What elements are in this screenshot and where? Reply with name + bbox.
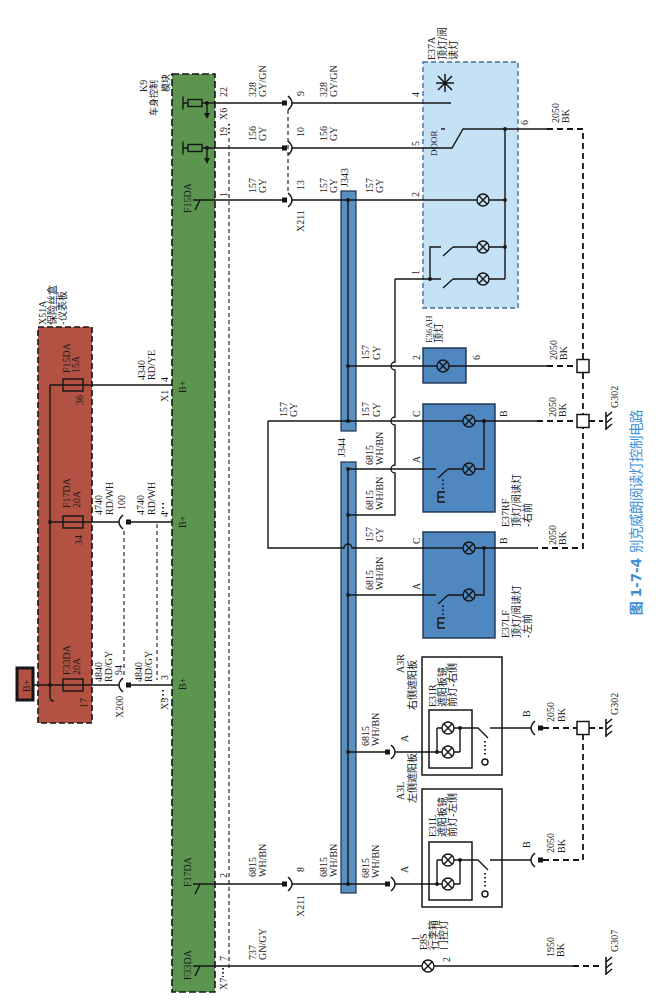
wire-color: GY — [328, 179, 339, 193]
circuit-number: 2050 — [545, 702, 556, 722]
fuse-box-location: -仪表板 — [56, 291, 68, 325]
pin-number: A — [399, 734, 410, 742]
fuse-pin: 34 — [73, 535, 84, 545]
magnet-icon — [482, 891, 488, 897]
wire-color: GY — [371, 346, 382, 360]
wire-color: RD/WH — [104, 482, 115, 515]
wire-color: RD/WH — [146, 482, 157, 515]
bcm-name: 车身控制 — [148, 80, 159, 116]
wiring-diagram: X51A 保险丝盒 -仪表板 F15DA 15A 36 4340 RD/YE 4… — [0, 0, 656, 1006]
pin-number: 22 — [218, 87, 229, 97]
component-name: -左前 — [521, 614, 533, 638]
pin-number: B — [498, 537, 509, 544]
pin-number: 4 — [159, 512, 170, 517]
pin-number: 13 — [295, 180, 306, 190]
wire-color: BK — [555, 942, 566, 957]
component-name: -右前 — [521, 503, 533, 527]
fuse-rating: 15A — [70, 355, 81, 373]
pin-number: 100 — [116, 495, 127, 510]
component-name: 门控灯 — [437, 920, 449, 950]
connector-id: X7 — [218, 978, 229, 990]
component-name: 顶灯/阅 — [436, 27, 448, 60]
pin-number: 2 — [441, 957, 452, 962]
component-name: 读灯 — [447, 40, 459, 60]
wire-color: GY — [257, 179, 268, 193]
pin-number: C — [411, 410, 422, 417]
pin-number: 5 — [410, 141, 421, 146]
circuit-number: 4740 — [93, 495, 104, 515]
splice-square-icon — [577, 360, 589, 373]
ground-id: G307 — [609, 930, 620, 952]
wire-color: BK — [556, 838, 567, 853]
connector-id: X211 — [295, 895, 306, 917]
supply-label: B+ — [177, 677, 188, 690]
output-fuse-id: F17DA — [182, 856, 193, 887]
wire-color: BK — [557, 530, 568, 545]
connector-id: X211 — [295, 210, 306, 232]
pin-number: 4 — [410, 92, 421, 97]
figure-number: 图 1-7-4 — [628, 558, 644, 615]
component-id: A3R — [395, 654, 406, 673]
connector-id: X200 — [114, 696, 125, 718]
component-name: 左侧遮阳板 — [406, 753, 418, 803]
fuse-rating: 20A — [71, 657, 82, 675]
component-name: 顶灯 — [433, 323, 444, 343]
pin-number: B — [521, 841, 532, 848]
pin-number: B — [521, 710, 532, 717]
connector-id: X5 — [159, 698, 170, 710]
wire-color: WH/BN — [370, 713, 381, 746]
circuit-number: 4740 — [135, 495, 146, 515]
circuit-number: 157 — [360, 345, 371, 360]
pin-number: 10 — [295, 127, 306, 137]
pin-number: A — [411, 455, 422, 463]
wire-color: RD/GY — [143, 651, 154, 682]
supply-label: B+ — [177, 515, 188, 528]
connector-id: X1 — [159, 390, 170, 402]
pin-number: 2 — [218, 873, 229, 878]
switch-label: DOOR — [429, 130, 439, 156]
wire-color: GY/GN — [328, 65, 339, 97]
wire-color: GY/GN — [257, 65, 268, 97]
connector-id: X6 — [218, 108, 229, 120]
component-name: 前灯-右侧 — [446, 663, 458, 707]
pin-number: 7 — [218, 956, 229, 961]
pin-number: 19 — [218, 127, 229, 137]
circuit-number: 157 — [360, 402, 371, 417]
bcm-name: 模块 — [160, 74, 171, 92]
wire-color: BK — [557, 402, 568, 417]
pin-number: 1 — [410, 270, 421, 275]
wire-color: GY — [374, 528, 385, 542]
body-control-module-k9 — [172, 74, 215, 992]
component-id: E37RF — [500, 498, 511, 527]
wire-color: BK — [558, 345, 569, 360]
output-fuse-id: F33DA — [182, 949, 193, 980]
component-name: 右侧遮阳板 — [406, 660, 418, 710]
bcm-id: K9 — [138, 80, 149, 92]
pin-number: 4 — [159, 377, 170, 382]
circuit-number: 2050 — [545, 833, 556, 853]
wire-color: WH/BN — [374, 432, 385, 465]
wire-color: GY — [288, 403, 299, 417]
pin-number: C — [411, 537, 422, 544]
roof-console-e37a — [423, 62, 518, 308]
wire-color: GN/GY — [257, 928, 268, 960]
pin-number: 2 — [410, 192, 421, 197]
wire-color: BK — [556, 707, 567, 722]
splice-square-icon — [577, 415, 589, 428]
wire-color: BK — [560, 108, 571, 123]
ground-id: G302 — [609, 693, 620, 715]
wire-color: WH/BN — [370, 845, 381, 878]
figure-title: 别克威朗阅读灯控制电路 — [628, 409, 644, 553]
light-sensor-icon — [436, 74, 454, 92]
fuse-pin: 17 — [78, 698, 89, 708]
splice-id: J343 — [339, 168, 350, 187]
wire-color: WH/BN — [328, 844, 339, 877]
fuse-pin: 36 — [74, 395, 85, 405]
wire-color: GY — [371, 403, 382, 417]
wire-color: GY — [328, 127, 339, 141]
pin-number: 2 — [411, 355, 422, 360]
component-id: A3L — [395, 782, 406, 800]
pin-number: 6 — [519, 120, 530, 125]
supply-label: B+ — [177, 380, 188, 393]
output-fuse-id: F15DA — [182, 182, 193, 213]
